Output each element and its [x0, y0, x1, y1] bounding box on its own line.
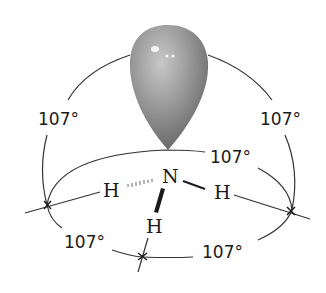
arc-front-left-a — [47, 205, 62, 228]
atom-n: N — [162, 165, 179, 187]
angle-label-front-left: 107° — [64, 232, 105, 252]
atom-h-front: H — [146, 215, 163, 237]
angle-label-front-right: 107° — [202, 242, 243, 262]
plain-bond — [183, 181, 205, 189]
orbital-highlight — [151, 46, 159, 52]
arc-lonepair-left — [68, 55, 130, 100]
ammonia-diagram: N H H H 107° 107° 107° 107° 107° — [0, 0, 326, 293]
angle-label-lonepair-right: 107° — [260, 109, 301, 129]
ext-line-right — [234, 195, 310, 219]
electron-dot-2 — [171, 54, 174, 57]
hashed-bond — [128, 179, 152, 187]
atom-h-right: H — [214, 181, 231, 203]
arc-front-mid — [142, 257, 193, 258]
arc-lonepair-right — [208, 55, 272, 100]
lone-pair-orbital — [130, 25, 208, 150]
angle-label-back: 107° — [210, 147, 251, 167]
ext-line-left — [25, 192, 100, 213]
arc-lonepair-left-lower — [43, 135, 48, 205]
angle-label-lonepair-left: 107° — [38, 109, 79, 129]
wedge-bond — [154, 188, 165, 213]
atom-h-left: H — [103, 179, 120, 201]
electron-dot-1 — [165, 54, 168, 57]
arc-back — [47, 150, 205, 205]
arc-front-left-b — [112, 250, 142, 257]
molecule-svg: N H H H 107° 107° 107° 107° 107° — [0, 0, 326, 293]
